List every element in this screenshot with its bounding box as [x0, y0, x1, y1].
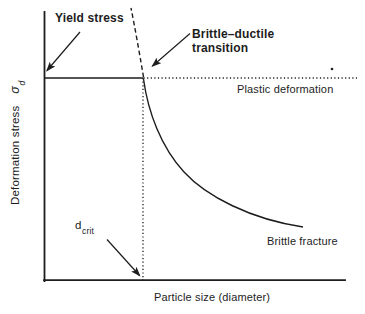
dcrit-arrow	[107, 240, 140, 276]
brittle-ductile-label: Brittle–ductile transition	[192, 28, 274, 55]
brittle-fracture-curve	[144, 79, 304, 227]
sigma-symbol: σd	[8, 81, 22, 94]
fracture-curve-dashed-extension	[131, 8, 144, 77]
sigma-symbol-subscript: d	[17, 81, 27, 86]
y-axis-label: Deformation stressσd	[9, 68, 25, 218]
y-axis-label-text: Deformation stress	[9, 106, 21, 205]
stray-dot	[331, 68, 334, 71]
dcrit-label-subscript: crit	[82, 226, 94, 236]
x-axis-label: Particle size (diameter)	[154, 291, 270, 304]
brittle-ductile-label-line2: transition	[192, 42, 274, 56]
diagram-svg	[0, 0, 365, 314]
yield-stress-arrow	[47, 32, 80, 71]
dcrit-label: dcrit	[75, 219, 93, 233]
transition-arrow	[153, 34, 191, 67]
sigma-symbol-glyph: σ	[8, 86, 22, 94]
yield-stress-label: Yield stress	[55, 12, 124, 26]
dcrit-label-symbol: d	[75, 219, 82, 231]
brittle-ductile-label-line1: Brittle–ductile	[192, 28, 274, 42]
plastic-deformation-label: Plastic deformation	[237, 83, 333, 96]
figure-canvas: Yield stress Brittle–ductile transition …	[0, 0, 365, 314]
brittle-fracture-label: Brittle fracture	[267, 235, 338, 248]
